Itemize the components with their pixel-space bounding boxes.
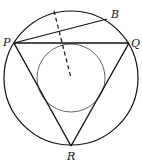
label-p: P xyxy=(2,36,11,49)
segment-qr xyxy=(71,43,129,146)
chord-pb xyxy=(14,19,107,43)
segment-rp xyxy=(14,43,71,146)
label-r: R xyxy=(66,150,75,163)
label-b: B xyxy=(110,8,119,21)
label-q: Q xyxy=(131,37,140,50)
geometry-diagram: P Q B R xyxy=(0,0,142,163)
